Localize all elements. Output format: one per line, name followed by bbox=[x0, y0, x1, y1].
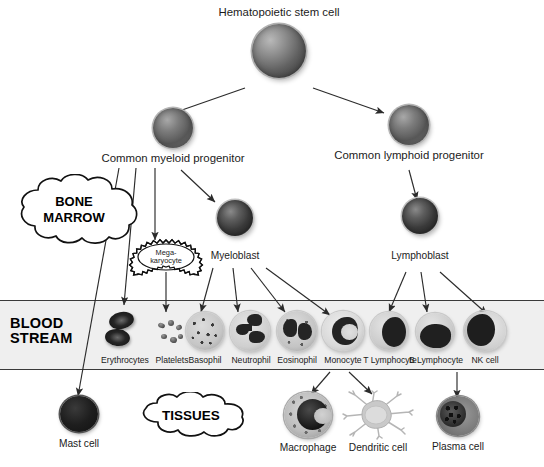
label-common-lymphoid-progenitor: Common lymphoid progenitor bbox=[323, 149, 495, 161]
label-eosinophil: Eosinophil bbox=[271, 355, 323, 365]
label-basophil: Basophil bbox=[180, 355, 230, 365]
cell-monocyte bbox=[322, 311, 364, 351]
blood-stream-label-line1: BLOOD bbox=[10, 316, 72, 331]
cell-hematopoietic-stem-cell bbox=[252, 24, 306, 78]
label-myeloblast: Myeloblast bbox=[203, 250, 267, 262]
label-mast-cell: Mast cell bbox=[48, 438, 110, 450]
cell-common-lymphoid-progenitor bbox=[389, 105, 429, 145]
label-macrophage: Macrophage bbox=[271, 442, 345, 454]
node-lymphoblast: Lymphoblast bbox=[388, 198, 452, 262]
node-dendritic-cell: Dendritic cell bbox=[338, 390, 418, 454]
edge-monocyte-to-macrophage bbox=[311, 372, 330, 394]
tissues-cloud-shape bbox=[132, 392, 250, 438]
label-neutrophil: Neutrophil bbox=[224, 355, 278, 365]
cell-mast-cell bbox=[60, 396, 98, 432]
cell-b-lymphocyte bbox=[416, 313, 454, 350]
bone-marrow-cloud-shape bbox=[8, 174, 140, 246]
label-lymphoblast: Lymphoblast bbox=[388, 250, 452, 262]
megakaryocyte-spiky-shape bbox=[126, 238, 206, 276]
cell-common-myeloid-progenitor bbox=[153, 108, 193, 148]
cell-myeloblast bbox=[217, 200, 253, 236]
cell-dendritic-cell bbox=[338, 390, 418, 440]
compartment-tissues: TISSUES bbox=[132, 392, 250, 438]
label-common-myeloid-progenitor: Common myeloid progenitor bbox=[88, 152, 258, 164]
node-erythrocytes bbox=[99, 311, 151, 353]
compartment-bone-marrow: BONE MARROW bbox=[8, 174, 140, 246]
node-myeloblast: Myeloblast bbox=[203, 200, 267, 262]
label-erythrocytes: Erythrocytes bbox=[95, 355, 155, 365]
cell-lymphoblast bbox=[402, 198, 438, 234]
label-dendritic-cell: Dendritic cell bbox=[338, 442, 418, 454]
node-common-lymphoid-progenitor: Common lymphoid progenitor bbox=[323, 105, 495, 161]
node-plasma-cell: Plasma cell bbox=[427, 396, 489, 453]
edge-clp-to-lymphoblast bbox=[409, 170, 417, 200]
cell-nk-cell bbox=[464, 311, 506, 351]
cell-basophil bbox=[186, 312, 224, 350]
blood-stream-label: BLOOD STREAM bbox=[10, 316, 72, 346]
label-hematopoietic-stem-cell: Hematopoietic stem cell bbox=[199, 6, 359, 18]
blood-stream-label-line2: STREAM bbox=[10, 331, 72, 346]
node-megakaryocyte: Mega- karyocyte bbox=[126, 238, 206, 276]
cell-plasma-cell bbox=[437, 396, 479, 436]
label-plasma-cell: Plasma cell bbox=[427, 441, 489, 453]
node-common-myeloid-progenitor: Common myeloid progenitor bbox=[88, 108, 258, 164]
dendritic-shape bbox=[341, 390, 415, 440]
label-nk-cell: NK cell bbox=[458, 355, 512, 365]
sprite-erythrocytes bbox=[99, 311, 151, 353]
cell-t-lymphocyte bbox=[370, 312, 408, 350]
node-mast-cell: Mast cell bbox=[48, 396, 110, 450]
cell-macrophage bbox=[284, 392, 332, 438]
label-b-lymphocyte: B Lymphocyte bbox=[406, 355, 466, 365]
node-macrophage: Macrophage bbox=[271, 392, 345, 454]
node-hematopoietic-stem-cell: Hematopoietic stem cell bbox=[199, 4, 359, 78]
edge-cmp-to-myeloblast bbox=[181, 170, 215, 202]
cell-neutrophil bbox=[230, 311, 270, 351]
hematopoiesis-diagram: Hematopoietic stem cell Common myeloid p… bbox=[0, 0, 544, 467]
cell-eosinophil bbox=[277, 311, 317, 351]
